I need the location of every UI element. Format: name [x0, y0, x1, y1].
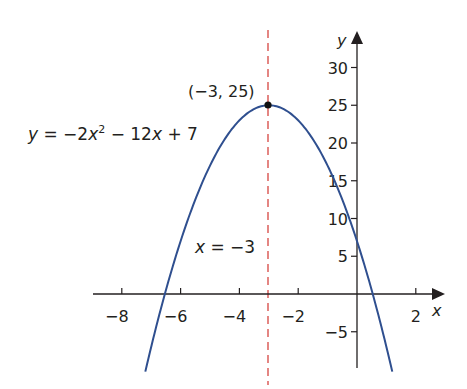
y-tick-label: 30 [328, 59, 348, 78]
y-axis-arrow-icon [351, 31, 363, 44]
x-axis: −8−6−4−22 x [93, 288, 445, 326]
y-axis-label: y [336, 31, 347, 50]
y-tick-label: 5 [338, 247, 348, 266]
y-tick-label: 20 [328, 134, 348, 153]
y-axis: 30252015105−5 y [324, 31, 363, 368]
y-tick-label: −5 [324, 323, 348, 342]
y-tick-label: 10 [328, 210, 348, 229]
x-axis-label: x [431, 301, 442, 320]
vertex-point [264, 101, 271, 108]
x-tick-label: −4 [223, 307, 247, 326]
symmetry-line-label: x = −3 [194, 237, 255, 257]
x-tick-label: −6 [164, 307, 188, 326]
x-tick-label: −2 [281, 307, 305, 326]
x-tick-label: 2 [411, 307, 421, 326]
vertex-label: (−3, 25) [188, 82, 255, 101]
y-tick-label: 25 [328, 96, 348, 115]
x-axis-arrow-icon [432, 288, 445, 300]
equation-label: y = −2x2 − 12x + 7 [27, 123, 198, 144]
x-tick-label: −8 [105, 307, 129, 326]
parabola-chart: −8−6−4−22 x 30252015105−5 y (−3, 25) y =… [0, 0, 467, 389]
